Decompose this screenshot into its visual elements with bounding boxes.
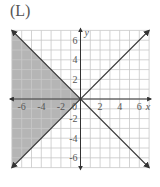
x-tick-label: -6 (18, 101, 26, 112)
x-axis-label: x (145, 101, 151, 112)
y-tick-label: -6 (69, 152, 77, 163)
y-tick-label: 2 (73, 74, 78, 85)
x-tick-label: 4 (117, 101, 122, 112)
y-axis-label: y (84, 27, 90, 38)
x-tick-label: -2 (57, 101, 65, 112)
x-tick-label: 2 (98, 101, 103, 112)
x-tick-label: 0 (72, 101, 77, 112)
y-tick-label: -4 (69, 133, 77, 144)
x-tick-label: 6 (137, 101, 142, 112)
x-tick-label: -4 (37, 101, 45, 112)
y-tick-label: -2 (69, 113, 77, 124)
y-tick-label: 4 (73, 54, 78, 65)
y-tick-label: 6 (73, 35, 78, 46)
coordinate-plane: -6-4-20246642-2-4-6xy (0, 0, 160, 187)
